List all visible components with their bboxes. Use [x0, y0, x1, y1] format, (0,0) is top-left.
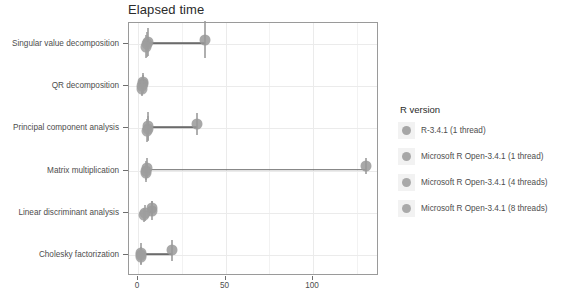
- series-connector-line: [146, 42, 206, 44]
- chart-root: Elapsed time Singular value decompositio…: [0, 0, 568, 303]
- x-axis-tick-mark: [137, 276, 138, 280]
- data-point[interactable]: [137, 83, 148, 94]
- x-axis-tick-label: 50: [220, 281, 229, 290]
- gridline-horizontal: [129, 213, 377, 214]
- legend-item-label: Microsoft R Open-3.4.1 (4 threads): [421, 178, 548, 187]
- legend-item-label: Microsoft R Open-3.4.1 (1 thread): [421, 152, 543, 161]
- legend-key-swatch: [398, 122, 415, 139]
- legend-dot-icon: [402, 126, 411, 135]
- gridline-vertical: [313, 23, 314, 274]
- y-axis-tick-label: Matrix multiplication: [0, 165, 119, 174]
- y-axis-tick-label: Cholesky factorization: [0, 249, 119, 258]
- x-axis-tick-label: 0: [135, 281, 140, 290]
- series-connector-line: [146, 169, 367, 171]
- data-point[interactable]: [135, 252, 146, 263]
- gridline-horizontal: [129, 128, 377, 129]
- data-point[interactable]: [191, 118, 202, 129]
- gridline-vertical-minor: [269, 23, 270, 274]
- data-point[interactable]: [200, 34, 211, 45]
- plot-panel: [128, 22, 378, 275]
- legend-dot-icon: [402, 152, 411, 161]
- y-axis-tick-label: Linear discriminant analysis: [0, 207, 119, 216]
- data-point[interactable]: [140, 41, 151, 52]
- legend-title: R version: [400, 104, 566, 115]
- y-axis-tick-label: Principal component analysis: [0, 123, 119, 132]
- y-axis-tick-label: Singular value decomposition: [0, 39, 119, 48]
- y-axis-tick-mark: [123, 43, 128, 44]
- data-point[interactable]: [140, 168, 151, 179]
- gridline-vertical: [138, 23, 139, 274]
- data-point[interactable]: [167, 245, 178, 256]
- data-point[interactable]: [141, 125, 152, 136]
- legend-key-swatch: [398, 200, 415, 217]
- legend: R version R-3.4.1 (1 thread)Microsoft R …: [398, 104, 566, 226]
- x-axis-tick-mark: [312, 276, 313, 280]
- y-axis-tick-mark: [123, 212, 128, 213]
- y-axis-tick-mark: [123, 85, 128, 86]
- y-axis-tick-mark: [123, 127, 128, 128]
- gridline-vertical-minor: [357, 23, 358, 274]
- legend-key-swatch: [398, 148, 415, 165]
- legend-item-3[interactable]: Microsoft R Open-3.4.1 (8 threads): [398, 200, 566, 217]
- legend-item-0[interactable]: R-3.4.1 (1 thread): [398, 122, 566, 139]
- y-axis-tick-mark: [123, 254, 128, 255]
- y-axis-tick-label: QR decomposition: [0, 81, 119, 90]
- chart-title: Elapsed time: [128, 2, 204, 17]
- gridline-vertical-minor: [182, 23, 183, 274]
- gridline-horizontal: [129, 44, 377, 45]
- x-axis-tick-label: 100: [305, 281, 319, 290]
- legend-item-label: R-3.4.1 (1 thread): [421, 126, 486, 135]
- gridline-horizontal: [129, 171, 377, 172]
- gridline-vertical: [226, 23, 227, 274]
- legend-dot-icon: [402, 178, 411, 187]
- legend-item-1[interactable]: Microsoft R Open-3.4.1 (1 thread): [398, 148, 566, 165]
- y-axis-tick-mark: [123, 170, 128, 171]
- x-axis-tick-mark: [225, 276, 226, 280]
- legend-key-swatch: [398, 174, 415, 191]
- series-connector-line: [147, 127, 197, 129]
- legend-item-2[interactable]: Microsoft R Open-3.4.1 (4 threads): [398, 174, 566, 191]
- data-point[interactable]: [139, 210, 150, 221]
- legend-dot-icon: [402, 204, 411, 213]
- gridline-horizontal: [129, 255, 377, 256]
- gridline-horizontal: [129, 86, 377, 87]
- data-point[interactable]: [361, 161, 372, 172]
- legend-item-label: Microsoft R Open-3.4.1 (8 threads): [421, 204, 548, 213]
- legend-items: R-3.4.1 (1 thread)Microsoft R Open-3.4.1…: [398, 122, 566, 217]
